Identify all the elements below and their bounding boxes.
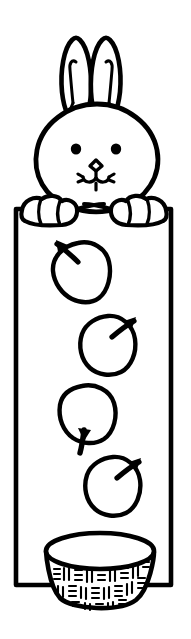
apple-1 (53, 240, 110, 302)
bunny (21, 38, 166, 226)
coloring-page (0, 0, 191, 639)
left-eye (71, 143, 81, 154)
coloring-illustration (0, 0, 191, 639)
right-eye (111, 143, 121, 154)
apple-2 (80, 316, 136, 375)
apple-4 (85, 457, 141, 516)
